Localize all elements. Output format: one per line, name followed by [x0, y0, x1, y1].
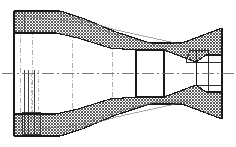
cross-section-drawing	[0, 0, 236, 147]
technical-drawing-canvas: Conical Reducer / Nozzle Half-Section Ha…	[0, 0, 236, 147]
